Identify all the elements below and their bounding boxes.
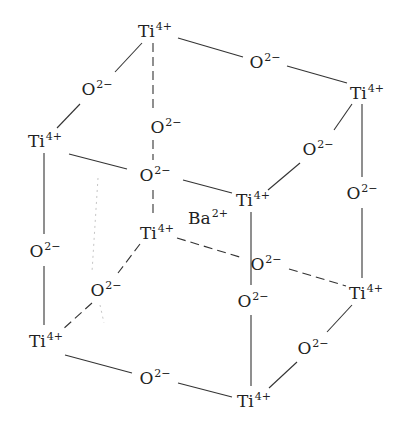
ion-label-o-top-right-edge: O2− [302, 139, 333, 158]
ion-symbol: O [150, 117, 164, 137]
ion-charge: 2− [312, 337, 328, 350]
ion-symbol: Ti [28, 131, 45, 151]
ion-label-ti-top-back-right: Ti4+ [350, 83, 384, 102]
ion-label-o-bottom-left-edge: O2− [90, 280, 121, 299]
ion-symbol: O [297, 338, 311, 358]
hidden-bond-line [177, 238, 243, 258]
ion-symbol: Ti [350, 83, 367, 103]
ion-symbol: O [139, 165, 153, 185]
ion-label-o-front-left-vertical: O2− [29, 241, 60, 260]
ion-label-ti-bottom-front-right: Ti4+ [237, 391, 271, 410]
ion-charge: 2− [265, 253, 281, 266]
bond-line [327, 305, 352, 332]
ion-label-ti-top-back-left: Ti4+ [138, 21, 172, 40]
ion-charge: 4+ [255, 390, 271, 403]
bond-line [178, 383, 232, 397]
ion-charge: 2− [154, 164, 170, 177]
ion-symbol: O [346, 183, 360, 203]
ion-symbol: Ti [29, 331, 46, 351]
bond-line [183, 180, 232, 193]
ion-charge: 4+ [254, 189, 270, 202]
faint-guide-lines [92, 178, 104, 323]
ion-symbol: O [139, 368, 153, 388]
ion-symbol: O [29, 241, 43, 261]
ion-symbol: Ti [140, 223, 157, 243]
bond-line [57, 104, 80, 128]
bond-line [334, 104, 352, 130]
ion-symbol: O [302, 139, 316, 159]
ion-label-ti-bottom-back-right: Ti4+ [349, 283, 383, 302]
ion-charge: 2− [165, 116, 181, 129]
ion-charge: 2− [96, 78, 112, 91]
ion-symbol: O [237, 291, 251, 311]
ion-symbol: O [81, 79, 95, 99]
ion-label-o-bottom-front-edge: O2− [139, 368, 170, 387]
ion-symbol: O [250, 254, 264, 274]
hidden-bond-line [289, 269, 346, 286]
ion-charge: 2− [317, 138, 333, 151]
ion-charge: 2− [44, 240, 60, 253]
faint-line [92, 178, 98, 272]
perovskite-unit-cell-diagram: Ti4+O2−O2−Ti4+Ti4+O2−O2−O2−Ti4+O2−Ba2+Ti… [0, 0, 407, 431]
ion-charge: 2− [252, 290, 268, 303]
ion-label-ti-top-front-right: Ti4+ [236, 190, 270, 209]
ion-label-ti-bottom-back-left: Ti4+ [140, 223, 174, 242]
ion-label-o-bottom-right-edge: O2− [297, 338, 328, 357]
ion-charge: 4+ [46, 130, 62, 143]
ion-charge: 2− [154, 367, 170, 380]
ion-symbol: Ba [188, 208, 211, 228]
ion-symbol: Ti [349, 283, 366, 303]
ion-charge: 4+ [368, 82, 384, 95]
ion-label-o-top-front-edge: O2− [139, 165, 170, 184]
faint-line [100, 305, 104, 323]
bond-line [178, 38, 243, 57]
ion-label-o-front-right-vertical: O2− [237, 291, 268, 310]
ion-charge: 4+ [367, 282, 383, 295]
ion-charge: 4+ [158, 222, 174, 235]
ion-label-o-top-back-edge: O2− [249, 52, 280, 71]
hidden-bond-line [118, 244, 140, 273]
bond-line [268, 163, 300, 190]
ion-symbol: Ti [236, 190, 253, 210]
bond-line [69, 154, 127, 169]
bond-line [115, 43, 142, 72]
ion-label-ti-top-front-left: Ti4+ [28, 131, 62, 150]
ion-symbol: O [249, 52, 263, 72]
ion-charge: 4+ [156, 20, 172, 33]
ion-label-o-bottom-back-edge: O2− [250, 254, 281, 273]
ion-label-o-back-right-vertical: O2− [346, 183, 377, 202]
ion-symbol: O [90, 280, 104, 300]
ion-label-ba-center: Ba2+ [188, 208, 228, 227]
ion-charge: 2− [105, 279, 121, 292]
bond-line [65, 355, 132, 373]
ion-charge: 2− [264, 51, 280, 64]
ion-label-o-back-left-vertical: O2− [150, 117, 181, 136]
ion-symbol: Ti [237, 391, 254, 411]
ion-label-o-top-left-edge: O2− [81, 79, 112, 98]
ion-symbol: Ti [138, 21, 155, 41]
hidden-bond-line [62, 303, 92, 330]
bond-line [269, 362, 297, 388]
ion-charge: 4+ [47, 330, 63, 343]
ion-charge: 2− [361, 182, 377, 195]
ion-label-ti-bottom-front-left: Ti4+ [29, 331, 63, 350]
bond-line [287, 66, 347, 83]
ion-charge: 2+ [212, 207, 228, 220]
